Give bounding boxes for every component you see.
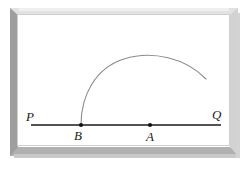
- label-A: A: [146, 130, 154, 143]
- diagram-canvas: P Q B A: [0, 0, 248, 170]
- label-P: P: [26, 110, 34, 123]
- point-A-marker: [148, 123, 152, 127]
- point-B-marker: [79, 123, 83, 127]
- label-Q: Q: [212, 108, 221, 121]
- figure-root: P Q B A: [0, 0, 248, 170]
- arc-from-B: [81, 55, 206, 125]
- diagram-svg: [0, 0, 248, 170]
- label-B: B: [74, 129, 82, 142]
